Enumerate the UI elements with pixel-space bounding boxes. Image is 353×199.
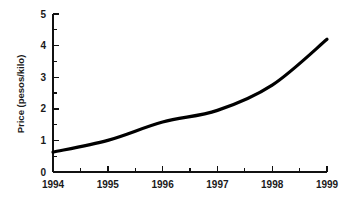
y-tick-label-1: 1 xyxy=(40,135,46,146)
chart-figure: Price (pesos/kilo) 5 4 3 2 1 0 xyxy=(0,0,353,199)
y-tick-label-2: 2 xyxy=(40,103,46,114)
y-tick-label-0: 0 xyxy=(40,167,46,178)
y-axis-title: Price (pesos/kilo) xyxy=(15,55,26,134)
price-line-chart: Price (pesos/kilo) 5 4 3 2 1 0 xyxy=(0,0,353,199)
x-tick-label-1999: 1999 xyxy=(316,179,339,190)
x-tick-label-1995: 1995 xyxy=(97,179,120,190)
x-tick-label-1996: 1996 xyxy=(151,179,174,190)
x-tick-label-1997: 1997 xyxy=(206,179,229,190)
y-tick-label-4: 4 xyxy=(40,40,46,51)
y-tick-label-5: 5 xyxy=(40,9,46,20)
y-tick-label-3: 3 xyxy=(40,72,46,83)
x-tick-label-1998: 1998 xyxy=(261,179,284,190)
x-tick-label-1994: 1994 xyxy=(42,179,65,190)
